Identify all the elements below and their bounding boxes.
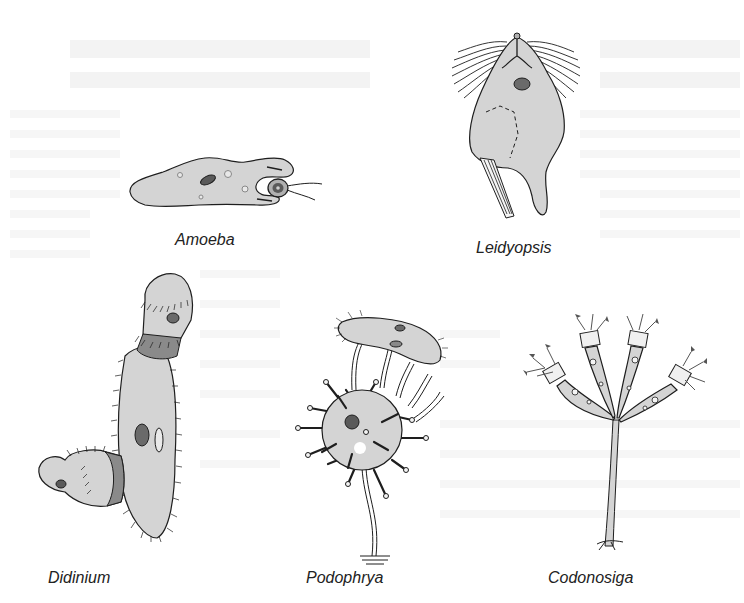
codonosiga-label: Codonosiga: [548, 569, 633, 587]
codonosiga-icon: [505, 318, 735, 558]
amoeba-label: Amoeba: [175, 231, 235, 249]
podophrya-illustration: [290, 300, 470, 560]
didinium-illustration: [25, 270, 205, 540]
didinium-icon: [25, 270, 205, 540]
didinium-label: Didinium: [48, 569, 110, 587]
leidyopsis-label: Leidyopsis: [476, 239, 552, 257]
leidyopsis-icon: [450, 28, 600, 228]
podophrya-icon: [290, 300, 470, 560]
amoeba-icon: [125, 150, 335, 210]
codonosiga-illustration: [505, 318, 735, 558]
podophrya-label: Podophrya: [306, 569, 383, 587]
amoeba-illustration: [125, 150, 335, 210]
leidyopsis-illustration: [450, 28, 600, 228]
